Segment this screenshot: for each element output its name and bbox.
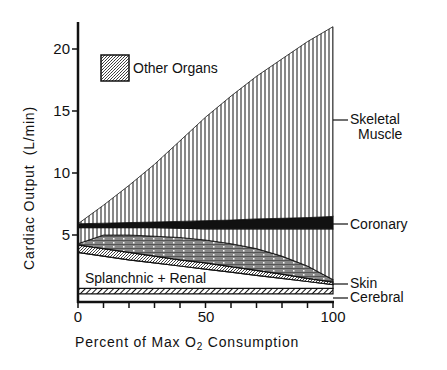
label-coronary: Coronary — [350, 216, 408, 232]
legend-label-other-organs: Other Organs — [133, 60, 218, 76]
y-tick-5: 5 — [62, 226, 70, 243]
y-axis-label: Cardiac Output (L/min) — [21, 106, 37, 270]
y-tick-20: 20 — [53, 40, 70, 57]
area-cerebral — [78, 288, 333, 294]
annotations: Skeletal Muscle Coronary Skin Cerebral — [350, 111, 408, 305]
y-tick-10: 10 — [53, 164, 70, 181]
x-tick-100: 100 — [320, 308, 345, 325]
x-tick-50: 50 — [198, 308, 215, 325]
label-skeletal: Skeletal — [350, 111, 400, 127]
y-tick-labels: 20 15 10 5 — [53, 40, 70, 243]
label-splanchnic-renal: Splanchnic + Renal — [85, 270, 206, 286]
label-cerebral: Cerebral — [350, 289, 404, 305]
x-tick-labels: 0 50 100 — [74, 308, 346, 325]
label-muscle: Muscle — [358, 126, 403, 142]
x-tick-0: 0 — [74, 308, 82, 325]
annotation-leaders — [333, 120, 348, 298]
y-tick-15: 15 — [53, 102, 70, 119]
cardiac-output-chart: 20 15 10 5 0 50 100 Cardiac Output (L/mi… — [0, 0, 447, 370]
x-axis-label: Percent of Max O2 Consumption — [75, 334, 299, 352]
legend-swatch-other-organs — [101, 55, 129, 81]
